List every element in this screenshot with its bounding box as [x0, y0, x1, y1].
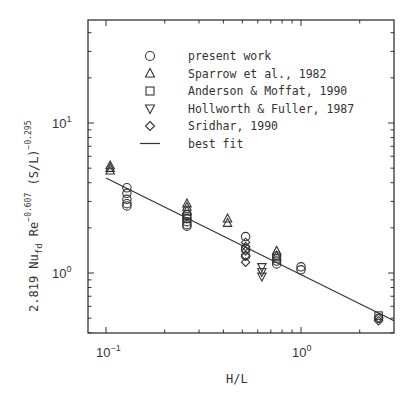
svg-text:Sparrow et al., 1982: Sparrow et al., 1982 [188, 67, 326, 81]
svg-text:2.819 Nufd Re−0.607 (S/L)−0.29: 2.819 Nufd Re−0.607 (S/L)−0.295 [24, 120, 44, 312]
legend: present workSparrow et al., 1982Anderson… [140, 49, 354, 151]
y-tick-labels: 101 100 [52, 114, 71, 281]
series-hollworth-fuller-1987 [258, 264, 266, 281]
x-tick-label-0: 10−1 [96, 343, 121, 360]
series-sridhar-1990 [241, 238, 382, 325]
legend-item: Hollworth & Fuller, 1987 [146, 102, 355, 116]
series-present-work [123, 184, 383, 323]
x-axis-label: H/L [226, 372, 248, 386]
x-tick-label-1: 100 [292, 343, 311, 360]
legend-item: Anderson & Moffat, 1990 [146, 84, 347, 98]
chart: 10−1 100 101 100 H/L 2.819 Nufd Re−0.607… [0, 0, 412, 398]
legend-item: Sridhar, 1990 [146, 119, 279, 133]
svg-text:Hollworth & Fuller, 1987: Hollworth & Fuller, 1987 [188, 102, 354, 116]
svg-text:Sridhar, 1990: Sridhar, 1990 [188, 119, 278, 133]
y-axis-label: 2.819 Nufd Re−0.607 (S/L)−0.295 [24, 120, 44, 312]
svg-text:Anderson & Moffat, 1990: Anderson & Moffat, 1990 [188, 84, 347, 98]
y-tick-label-1: 101 [52, 114, 71, 131]
legend-item: best fit [140, 137, 243, 151]
svg-text:best fit: best fit [188, 137, 243, 151]
series-sparrow-et-al-1982 [106, 161, 281, 259]
y-tick-label-0: 100 [52, 264, 71, 281]
legend-item: present work [146, 49, 272, 63]
x-tick-labels: 10−1 100 [96, 343, 311, 360]
data-points [106, 161, 383, 325]
legend-item: Sparrow et al., 1982 [146, 67, 327, 81]
svg-text:present work: present work [188, 49, 271, 63]
